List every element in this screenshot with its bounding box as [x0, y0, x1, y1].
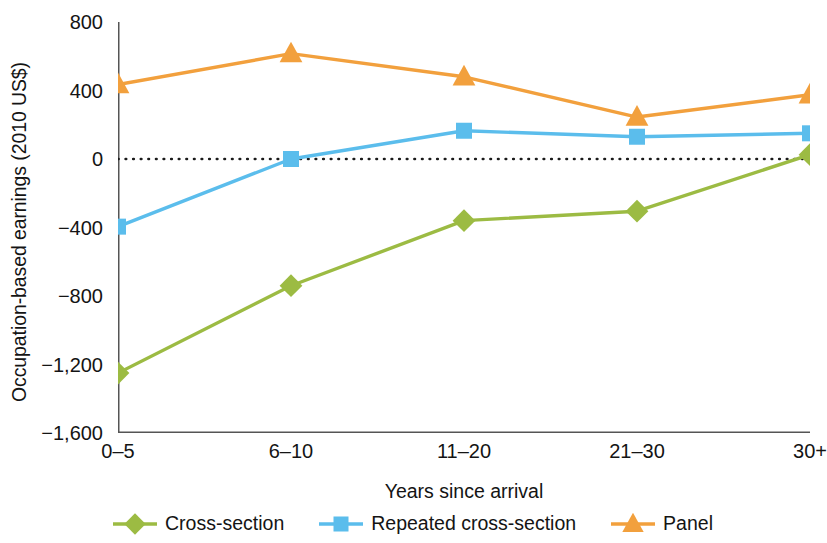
x-tick-label: 11–20	[437, 441, 491, 461]
data-point-marker	[280, 42, 303, 63]
x-axis-title: Years since arrival	[118, 480, 810, 503]
legend-item[interactable]: Repeated cross-section	[318, 512, 576, 535]
data-point-marker	[799, 83, 810, 104]
data-point-marker	[456, 123, 472, 139]
data-point-marker	[280, 274, 303, 297]
y-tick-label: 0	[11, 149, 103, 169]
legend-label: Cross-section	[165, 512, 284, 535]
y-tick-label: −400	[11, 218, 103, 238]
data-point-marker	[124, 513, 145, 534]
legend-marker-triangle-icon	[610, 513, 656, 535]
x-tick-label: 21–30	[609, 441, 665, 461]
chart-legend: Cross-sectionRepeated cross-sectionPanel	[0, 512, 825, 535]
x-tick-label: 6–10	[269, 441, 314, 461]
plot-svg	[118, 22, 810, 433]
legend-item[interactable]: Cross-section	[112, 512, 284, 535]
data-point-marker	[629, 129, 645, 145]
x-axis-tick-labels: 0–56–1011–2021–3030+	[118, 441, 810, 471]
data-point-marker	[118, 219, 126, 235]
legend-marker-square-icon	[318, 513, 364, 535]
legend-marker-diamond-icon	[112, 513, 158, 535]
legend-item[interactable]: Panel	[610, 512, 713, 535]
series-cross-section	[118, 143, 810, 384]
legend-label: Panel	[663, 512, 713, 535]
y-tick-label: −1,200	[11, 355, 103, 375]
y-axis-tick-labels: 8004000−400−800−1,200−1,600	[0, 0, 103, 543]
x-tick-label: 30+	[793, 441, 827, 461]
series-panel	[118, 42, 810, 126]
data-point-marker	[334, 516, 349, 531]
data-point-marker	[283, 151, 299, 167]
y-tick-label: −1,600	[11, 423, 103, 443]
x-tick-label: 0–5	[101, 441, 134, 461]
y-tick-label: −800	[11, 286, 103, 306]
y-tick-label: 800	[11, 12, 103, 32]
legend-label: Repeated cross-section	[371, 512, 576, 535]
data-point-marker	[799, 143, 810, 166]
data-point-marker	[453, 209, 476, 232]
plot-area	[118, 22, 810, 433]
y-tick-label: 400	[11, 81, 103, 101]
data-point-marker	[626, 200, 649, 223]
data-point-marker	[802, 125, 810, 141]
data-point-marker	[118, 362, 129, 385]
